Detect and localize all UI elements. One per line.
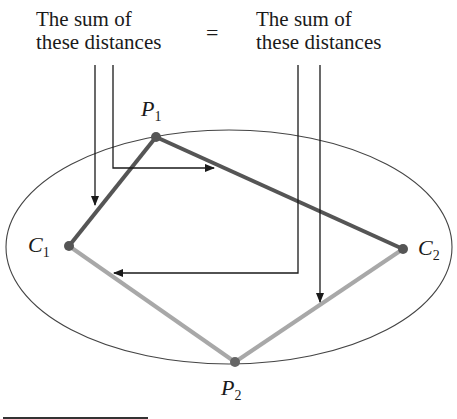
label-p2: P2 [221,375,241,404]
label-c1: C1 [28,232,50,261]
segment-p2-c2 [235,249,403,362]
label-c2: C2 [418,235,440,264]
point-c1 [64,241,74,251]
point-p2 [230,357,240,367]
point-p1 [151,132,161,142]
label-p1: P1 [141,96,161,125]
segment-p1-c2 [156,137,403,249]
arrow-left-elbow [113,65,214,168]
segment-c1-p2 [69,246,235,362]
point-c2 [398,244,408,254]
ellipse-diagram [0,0,457,419]
